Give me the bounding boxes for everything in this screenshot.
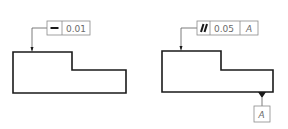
figure-straightness: 0.01 bbox=[13, 21, 126, 93]
datum-feature-symbol: A bbox=[254, 92, 270, 122]
feature-control-frame: 0.05 A bbox=[197, 21, 258, 35]
leader-line bbox=[181, 28, 197, 49]
datum-triangle-icon bbox=[258, 92, 266, 98]
part-outline bbox=[162, 51, 273, 92]
figure-parallelism: 0.05 A A bbox=[162, 21, 273, 122]
tolerance-value: 0.05 bbox=[214, 24, 234, 34]
leader-line bbox=[32, 28, 47, 50]
tolerance-value: 0.01 bbox=[66, 24, 86, 34]
feature-control-frame: 0.01 bbox=[47, 21, 90, 35]
datum-reference: A bbox=[245, 24, 252, 34]
part-outline bbox=[13, 52, 126, 93]
datum-label: A bbox=[258, 110, 265, 120]
